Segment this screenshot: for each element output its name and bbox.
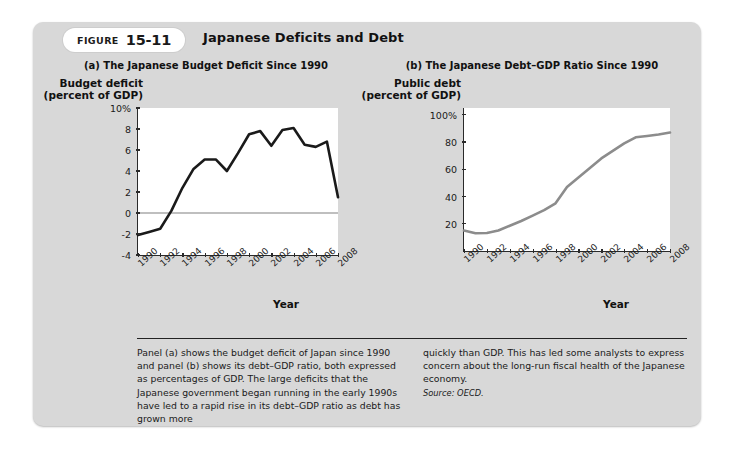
- figure-number: 15-11: [126, 32, 171, 48]
- y-tick-mark: [136, 233, 140, 234]
- y-tick-label: 4: [105, 166, 131, 177]
- figure-caption: Panel (a) shows the budget deficit of Ja…: [137, 346, 689, 412]
- y-tick-mark: [462, 223, 466, 224]
- y-tick-mark: [136, 149, 140, 150]
- y-tick-mark: [136, 212, 140, 213]
- y-tick-label: 0: [105, 208, 131, 219]
- y-tick-label: 10%: [105, 103, 131, 114]
- y-tick-label: 40: [427, 191, 457, 202]
- panel-a-y-axis-title: Budget deficit (percent of GDP): [33, 78, 143, 101]
- caption-text-right: quickly than GDP. This has led some anal…: [423, 346, 689, 386]
- y-tick-label: 8: [105, 124, 131, 135]
- figure-label-word: FIGURE: [77, 35, 119, 46]
- x-tick-mark: [138, 253, 139, 257]
- y-tick-label: 2: [105, 187, 131, 198]
- y-tick-mark: [462, 141, 466, 142]
- y-tick-label: 6: [105, 145, 131, 156]
- x-tick-mark: [294, 253, 295, 257]
- y-tick-label: 80: [427, 137, 457, 148]
- panel-b-x-axis-title: Year: [603, 298, 629, 310]
- x-tick-mark: [510, 249, 511, 253]
- panel-b-title: (b) The Japanese Debt–GDP Ratio Since 19…: [371, 60, 693, 71]
- y-tick-mark: [462, 114, 466, 115]
- panel-b-plot-area: 100%806040201990199219941996199820002002…: [463, 108, 670, 252]
- x-tick-mark: [670, 249, 671, 253]
- panel-a-title: (a) The Japanese Budget Deficit Since 19…: [41, 60, 371, 71]
- figure-header: FIGURE 15-11 Japanese Deficits and Debt: [33, 28, 701, 56]
- x-tick-mark: [533, 249, 534, 253]
- caption-text-left: Panel (a) shows the budget deficit of Ja…: [137, 346, 403, 425]
- caption-column-right: quickly than GDP. This has led some anal…: [423, 346, 689, 412]
- x-tick-label: 2008: [336, 246, 360, 269]
- panel-b-y-axis-title: Public debt (percent of GDP): [361, 78, 461, 101]
- caption-column-left: Panel (a) shows the budget deficit of Ja…: [137, 346, 403, 412]
- y-tick-mark: [136, 107, 140, 108]
- x-tick-mark: [227, 253, 228, 257]
- figure-panel: FIGURE 15-11 Japanese Deficits and Debt …: [33, 22, 701, 426]
- panel-b-series-line: [464, 108, 670, 251]
- y-tick-label: 100%: [427, 109, 457, 120]
- x-tick-mark: [338, 253, 339, 257]
- x-tick-mark: [316, 253, 317, 257]
- x-tick-mark: [205, 253, 206, 257]
- y-tick-mark: [136, 191, 140, 192]
- y-tick-label: -4: [105, 250, 131, 261]
- y-tick-mark: [462, 196, 466, 197]
- x-tick-mark: [556, 249, 557, 253]
- caption-source: Source: OECD.: [423, 387, 689, 400]
- panel-a-series-line: [138, 108, 338, 255]
- figure-number-badge: FIGURE 15-11: [63, 28, 185, 52]
- x-tick-mark: [464, 249, 465, 253]
- chart-panel-a: (a) The Japanese Budget Deficit Since 19…: [41, 60, 371, 328]
- panel-a-plot-area: 10%86420-2-41990199219941996199820002002…: [137, 108, 338, 256]
- y-tick-mark: [136, 170, 140, 171]
- y-tick-label: 60: [427, 164, 457, 175]
- x-tick-mark: [487, 249, 488, 253]
- chart-panel-b: (b) The Japanese Debt–GDP Ratio Since 19…: [371, 60, 693, 328]
- y-tick-label: 20: [427, 218, 457, 229]
- panel-a-x-axis-title: Year: [273, 298, 299, 310]
- x-tick-label: 2008: [668, 242, 692, 265]
- y-tick-mark: [462, 169, 466, 170]
- y-tick-label: -2: [105, 229, 131, 240]
- figure-title: Japanese Deficits and Debt: [203, 30, 404, 45]
- caption-divider: [137, 338, 687, 339]
- y-tick-mark: [136, 128, 140, 129]
